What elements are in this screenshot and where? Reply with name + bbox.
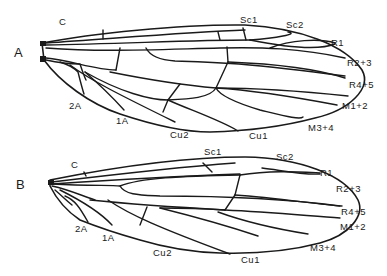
vein-label-1a: 1A [116, 116, 129, 126]
vein-label-sc2: Sc2 [286, 20, 304, 30]
vein-label-m1-2-b: M1+2 [340, 222, 366, 232]
vein-label-c-b: C [71, 160, 78, 170]
vein-label-r4-5-b: R4+5 [341, 207, 366, 217]
vein-label-2a-b: 2A [75, 224, 88, 234]
panel-label-a: A [14, 46, 23, 59]
vein-label-c: C [59, 17, 66, 27]
vein-label-r1-b: R1 [320, 168, 333, 178]
vein-label-r4-5: R4+5 [349, 80, 374, 90]
vein-label-sc2-b: Sc2 [276, 152, 294, 162]
wing-b-drawing [0, 0, 387, 276]
vein-label-1a-b: 1A [102, 233, 115, 243]
wing-venation-figure: A C Sc1 Sc2 R1 R2+3 R4+5 M1+2 M3+4 Cu1 C… [0, 0, 387, 276]
vein-label-r2-3: R2+3 [347, 58, 372, 68]
panel-label-b: B [16, 178, 25, 191]
vein-label-cu1: Cu1 [249, 131, 268, 141]
vein-label-cu2: Cu2 [170, 130, 189, 140]
vein-label-m3-4: M3+4 [308, 123, 334, 133]
vein-label-cu1-b: Cu1 [241, 255, 260, 265]
vein-label-r1: R1 [331, 38, 344, 48]
vein-label-cu2-b: Cu2 [153, 248, 172, 258]
vein-label-m3-4-b: M3+4 [310, 243, 336, 253]
vein-label-sc1-b: Sc1 [204, 147, 222, 157]
vein-label-sc1: Sc1 [240, 15, 258, 25]
wing-b-outline [50, 157, 360, 253]
vein-label-m1-2: M1+2 [342, 101, 368, 111]
vein-label-r2-3-b: R2+3 [336, 184, 361, 194]
vein-label-2a: 2A [69, 101, 82, 111]
